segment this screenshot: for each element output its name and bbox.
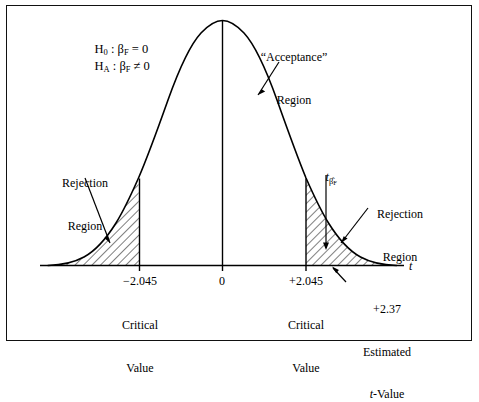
left-critical-value-label: Critical Value (104, 290, 176, 402)
right-rejection-region-line1: Rejection (352, 207, 448, 221)
test-statistic-f-subscript: F (333, 178, 337, 185)
test-statistic-symbol: tβ̂F (313, 155, 337, 201)
x-axis-label: t (409, 259, 412, 273)
tick-label-zero: 0 (206, 274, 238, 288)
tick-label-negative-critical: −2.045 (104, 274, 176, 288)
alternative-hypothesis: HA : βF ≠ 0 (82, 44, 150, 89)
acceptance-region-line1: “Acceptance” (246, 50, 342, 64)
estimated-t-value-word: Estimated (340, 345, 434, 359)
alt-hypothesis-value: ≠ 0 (131, 59, 150, 73)
right-critical-value-line1: Critical (270, 318, 342, 332)
left-rejection-region-line1: Rejection (37, 176, 133, 190)
estimated-t-value-label: +2.37 Estimated t-Value (340, 274, 434, 402)
acceptance-region-line2: Region (246, 93, 342, 107)
alt-hypothesis-relation: : β (110, 59, 126, 73)
right-rejection-region-line2: Region (352, 250, 448, 264)
right-critical-value-line2: Value (270, 361, 342, 375)
estimated-t-value-unit: t-Value (340, 387, 434, 401)
left-rejection-region-line2: Region (37, 219, 133, 233)
left-critical-value-line1: Critical (104, 318, 176, 332)
acceptance-region-label: “Acceptance” Region (246, 22, 342, 135)
tick-label-positive-critical: +2.045 (270, 274, 342, 288)
left-critical-value-line2: Value (104, 361, 176, 375)
estimated-t-value-suffix: -Value (373, 387, 404, 401)
left-rejection-region-label: Rejection Region (37, 148, 133, 261)
estimated-t-value-number: +2.37 (340, 302, 434, 316)
right-critical-value-label: Critical Value (270, 290, 342, 402)
alt-hypothesis-symbol: H (95, 59, 104, 73)
